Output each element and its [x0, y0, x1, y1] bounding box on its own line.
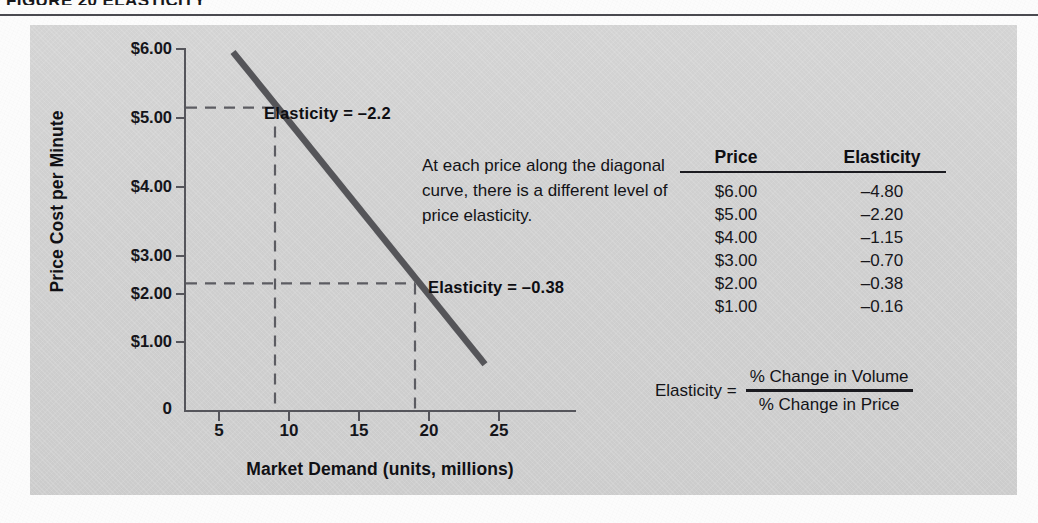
- cell-elasticity: –0.38: [792, 273, 946, 296]
- formula-lhs: Elasticity =: [655, 381, 737, 401]
- table-row: $6.00–4.80: [680, 172, 946, 204]
- formula-fraction: % Change in Volume % Change in Price: [746, 367, 913, 415]
- table-row: $4.00–1.15: [680, 227, 946, 250]
- cell-price: $1.00: [680, 296, 792, 319]
- table-body: $6.00–4.80$5.00–2.20$4.00–1.15$3.00–0.70…: [680, 172, 946, 319]
- cell-price: $5.00: [680, 204, 792, 227]
- cell-elasticity: –1.15: [792, 227, 946, 250]
- formula-numerator: % Change in Volume: [746, 367, 913, 389]
- elasticity-table: Price Elasticity $6.00–4.80$5.00–2.20$4.…: [680, 147, 946, 319]
- guide-lines: [186, 108, 415, 411]
- figure-caption: FIGURE 20 ELASTICITY: [6, 0, 206, 5]
- explanatory-text: At each price along the diagonal curve, …: [422, 153, 670, 228]
- formula-denominator: % Change in Price: [755, 392, 904, 415]
- elasticity-formula: Elasticity = % Change in Volume % Change…: [655, 367, 913, 415]
- cell-price: $3.00: [680, 250, 792, 273]
- elasticity-table-grid: Price Elasticity $6.00–4.80$5.00–2.20$4.…: [680, 147, 946, 319]
- table-row: $5.00–2.20: [680, 204, 946, 227]
- cell-elasticity: –4.80: [792, 172, 946, 204]
- header-divider: [0, 14, 1038, 16]
- cell-price: $2.00: [680, 273, 792, 296]
- table-head: Price Elasticity: [680, 147, 946, 172]
- table-row: $3.00–0.70: [680, 250, 946, 273]
- cell-elasticity: –0.70: [792, 250, 946, 273]
- table-row: $1.00–0.16: [680, 296, 946, 319]
- cell-elasticity: –2.20: [792, 204, 946, 227]
- cell-price: $4.00: [680, 227, 792, 250]
- figure-page: FIGURE 20 ELASTICITY $6.00 $5.00 $4.00: [0, 0, 1038, 523]
- chart-panel: $6.00 $5.00 $4.00 $3.00 $2.00 $1.00 0: [30, 25, 1017, 495]
- table-header-row: Price Elasticity: [680, 147, 946, 172]
- table-header-price: Price: [680, 147, 792, 172]
- annotation-elasticity-low: Elasticity = –0.38: [428, 278, 564, 297]
- table-header-elasticity: Elasticity: [792, 147, 946, 172]
- cell-elasticity: –0.16: [792, 296, 946, 319]
- cell-price: $6.00: [680, 172, 792, 204]
- annotation-elasticity-high: Elasticity = –2.2: [264, 104, 391, 123]
- table-row: $2.00–0.38: [680, 273, 946, 296]
